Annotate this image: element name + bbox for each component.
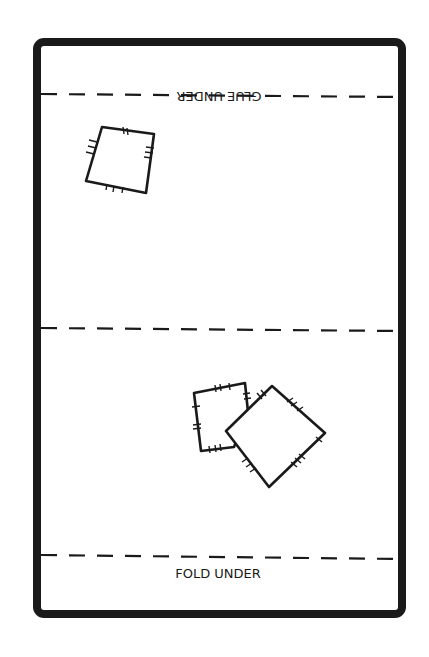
glue-under-label: GLUE UNDER <box>176 89 261 104</box>
outer-frame <box>37 42 402 614</box>
template-diagram: GLUE UNDER FOLD UNDER <box>0 0 429 657</box>
fold-under-label: FOLD UNDER <box>175 566 261 581</box>
